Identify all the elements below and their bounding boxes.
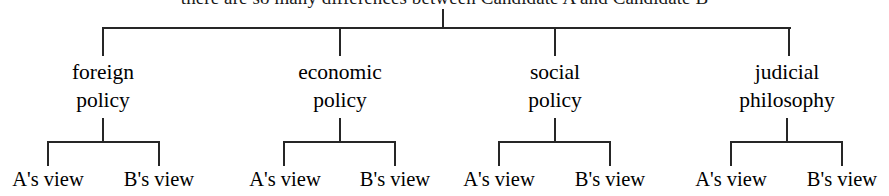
tree-connector-lines <box>0 0 889 196</box>
tree-diagram: there are so many differences between Ca… <box>0 0 889 196</box>
